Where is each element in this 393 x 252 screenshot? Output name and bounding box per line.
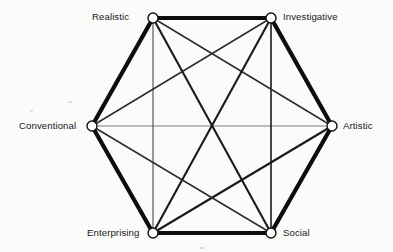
edge-conventional-realistic (92, 18, 153, 126)
edge-investigative-artistic (271, 18, 332, 126)
scan-artifact-speck (68, 101, 73, 103)
node-label-artistic: Artistic (343, 121, 373, 131)
scan-artifact-speck (30, 110, 33, 112)
node-label-conventional: Conventional (19, 121, 76, 131)
node-marker-artistic[interactable] (327, 121, 337, 131)
node-marker-conventional[interactable] (87, 121, 97, 131)
node-marker-investigative[interactable] (266, 13, 276, 23)
edge-group-alternate (92, 18, 332, 233)
node-label-social: Social (283, 228, 310, 238)
node-marker-realistic[interactable] (148, 13, 158, 23)
scan-artifact-speck (199, 247, 205, 249)
edge-enterprising-conventional (92, 126, 153, 233)
node-label-enterprising: Enterprising (87, 228, 139, 238)
riasec-hexagon-figure: Realistic Investigative Artistic Social … (0, 0, 393, 252)
edge-conventional-investigative (92, 18, 271, 126)
node-marker-social[interactable] (266, 228, 276, 238)
node-label-realistic: Realistic (92, 12, 129, 22)
node-marker-enterprising[interactable] (148, 228, 158, 238)
edge-artistic-social (271, 126, 332, 233)
edge-artistic-enterprising (153, 126, 332, 233)
node-label-investigative: Investigative (283, 12, 338, 22)
